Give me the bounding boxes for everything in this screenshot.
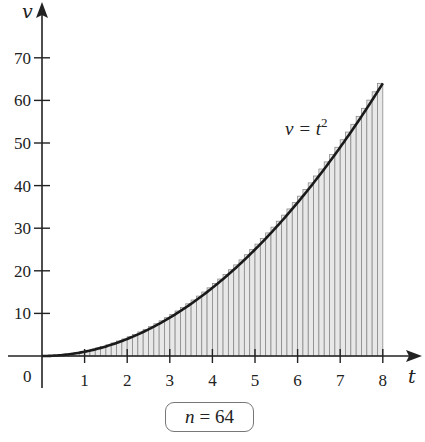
riemann-sum-chart: 12345678 10203040506070 0 t v v = t2 bbox=[0, 0, 425, 400]
n-rectangles-badge: n = 64 bbox=[165, 402, 254, 432]
riemann-rect bbox=[298, 196, 303, 356]
x-tick-label: 7 bbox=[336, 371, 345, 390]
riemann-rect bbox=[319, 169, 324, 356]
n-variable: n bbox=[185, 406, 195, 428]
riemann-rect bbox=[314, 176, 319, 356]
riemann-rect bbox=[282, 215, 287, 356]
riemann-rect bbox=[175, 311, 180, 356]
riemann-rect bbox=[234, 265, 239, 356]
riemann-rect bbox=[149, 327, 154, 356]
riemann-rect bbox=[255, 244, 260, 356]
riemann-rect bbox=[212, 284, 217, 356]
n-equals: = bbox=[199, 406, 210, 428]
curve-label: v = t2 bbox=[285, 115, 328, 139]
riemann-rect bbox=[324, 162, 329, 356]
x-tick-label: 5 bbox=[251, 371, 260, 390]
riemann-rect bbox=[266, 233, 271, 356]
riemann-rect bbox=[143, 329, 148, 356]
riemann-rect bbox=[170, 314, 175, 356]
riemann-rect bbox=[335, 147, 340, 356]
riemann-rect bbox=[154, 324, 159, 356]
riemann-rect bbox=[164, 318, 169, 356]
riemann-rect bbox=[356, 116, 361, 356]
y-tick-label: 30 bbox=[14, 219, 31, 238]
riemann-rect bbox=[186, 304, 191, 356]
y-axis-ticks: 10203040506070 bbox=[14, 49, 50, 324]
riemann-rect bbox=[180, 307, 185, 356]
riemann-rect bbox=[308, 183, 313, 356]
riemann-rect bbox=[377, 83, 382, 356]
y-tick-label: 40 bbox=[14, 177, 31, 196]
x-tick-label: 2 bbox=[123, 371, 132, 390]
y-tick-label: 10 bbox=[14, 304, 31, 323]
riemann-rect bbox=[244, 255, 249, 356]
riemann-rect bbox=[367, 100, 372, 356]
origin-label: 0 bbox=[23, 367, 32, 386]
riemann-rect bbox=[228, 270, 233, 356]
riemann-rect bbox=[218, 279, 223, 356]
y-tick-label: 60 bbox=[14, 91, 31, 110]
y-axis-label: v bbox=[22, 0, 33, 22]
x-tick-label: 1 bbox=[80, 371, 89, 390]
riemann-rect bbox=[159, 321, 164, 356]
riemann-rect bbox=[292, 203, 297, 356]
curve-label-exponent: 2 bbox=[321, 115, 328, 130]
riemann-rect bbox=[330, 155, 335, 356]
riemann-rect bbox=[138, 332, 143, 356]
riemann-rect bbox=[276, 221, 281, 356]
x-tick-label: 8 bbox=[379, 371, 388, 390]
x-tick-label: 6 bbox=[293, 371, 302, 390]
riemann-rect bbox=[340, 140, 345, 356]
riemann-rect bbox=[271, 227, 276, 356]
y-tick-label: 50 bbox=[14, 134, 31, 153]
y-tick-label: 20 bbox=[14, 262, 31, 281]
riemann-rectangles bbox=[42, 83, 383, 356]
riemann-rect bbox=[346, 132, 351, 356]
riemann-rect bbox=[362, 108, 367, 356]
riemann-rect bbox=[260, 239, 265, 356]
riemann-rect bbox=[202, 292, 207, 356]
riemann-rect bbox=[303, 190, 308, 356]
riemann-rect bbox=[223, 274, 228, 356]
y-tick-label: 70 bbox=[14, 49, 31, 68]
riemann-rect bbox=[372, 92, 377, 356]
n-value: 64 bbox=[215, 406, 234, 428]
riemann-rect bbox=[287, 209, 292, 356]
riemann-rect bbox=[196, 296, 201, 356]
x-tick-label: 4 bbox=[208, 371, 217, 390]
x-axis-label: t bbox=[408, 365, 416, 387]
riemann-rect bbox=[250, 250, 255, 357]
riemann-rect bbox=[351, 124, 356, 356]
x-tick-label: 3 bbox=[166, 371, 175, 390]
riemann-rect bbox=[207, 288, 212, 356]
riemann-rect bbox=[239, 260, 244, 356]
riemann-rect bbox=[191, 300, 196, 356]
